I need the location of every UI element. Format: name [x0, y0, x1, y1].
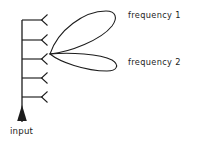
- antenna-diagram-svg: [0, 0, 199, 146]
- array-element-5: [22, 92, 48, 103]
- figure-canvas: frequency 1 frequency 2 input: [0, 0, 199, 146]
- array-element-2: [22, 35, 48, 46]
- frequency-1-label: frequency 1: [128, 10, 181, 20]
- frequency-2-label: frequency 2: [128, 57, 181, 67]
- upper-beam-lobe: [50, 11, 115, 54]
- input-arrow-icon: [17, 105, 27, 121]
- lower-beam-lobe: [50, 53, 117, 71]
- array-element-3: [22, 54, 48, 65]
- input-label: input: [10, 126, 33, 136]
- array-element-4: [22, 73, 48, 84]
- array-element-1: [22, 15, 48, 26]
